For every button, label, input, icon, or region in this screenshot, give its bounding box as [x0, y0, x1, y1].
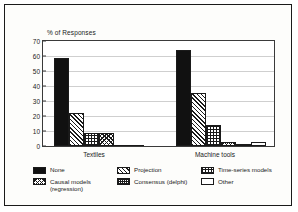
chart-figure: % of Responses 010203040506070 Textiles … [4, 4, 292, 206]
legend-item-causal-models: Causal models (regression) [33, 178, 117, 193]
x-axis-label-1: Machine tools [195, 151, 235, 158]
bar [221, 142, 236, 147]
legend-swatch-consensus-delphi-icon [117, 178, 130, 185]
legend-item-none: None [33, 166, 117, 174]
y-tick-mark [43, 41, 46, 42]
y-tick-mark [43, 86, 46, 87]
y-tick-mark [43, 146, 46, 147]
bar [191, 93, 206, 146]
y-tick-mark [43, 71, 46, 72]
chart-legend: None Projection Time-series models Causa… [33, 166, 283, 197]
legend-label: Causal models (regression) [50, 178, 91, 193]
legend-label: Time-series models [218, 166, 272, 174]
y-tick-label: 20 [33, 113, 40, 120]
plot-area: 010203040506070 [42, 40, 275, 147]
legend-label: Projection [134, 166, 162, 174]
bar [236, 144, 251, 146]
bar [99, 133, 114, 147]
legend-item-projection: Projection [117, 166, 201, 174]
legend-swatch-time-series-models-icon [201, 167, 214, 174]
legend-swatch-causal-models-icon [33, 178, 46, 185]
bar [206, 125, 221, 146]
x-axis-label-0: Textiles [83, 151, 105, 158]
y-tick-mark [43, 116, 46, 117]
y-tick-mark [43, 101, 46, 102]
legend-label: Other [218, 178, 233, 186]
legend-item-other: Other [201, 178, 283, 186]
legend-swatch-none-icon [33, 167, 46, 174]
y-axis-title: % of Responses [47, 29, 96, 36]
y-tick-label: 10 [33, 128, 40, 135]
bar-group-machine-tools [176, 41, 266, 146]
y-tick-label: 30 [33, 98, 40, 105]
bar [54, 58, 69, 147]
bar [129, 145, 144, 146]
y-tick-label: 40 [33, 83, 40, 90]
y-tick-label: 60 [33, 53, 40, 60]
y-tick-label: 0 [36, 143, 40, 150]
legend-swatch-other-icon [201, 178, 214, 185]
bar [251, 142, 266, 147]
legend-label: Consensus (delphi) [134, 178, 187, 186]
legend-swatch-projection-icon [117, 167, 130, 174]
legend-item-consensus-delphi: Consensus (delphi) [117, 178, 201, 186]
y-tick-label: 50 [33, 68, 40, 75]
bar [84, 133, 99, 147]
y-tick-mark [43, 56, 46, 57]
legend-label: None [50, 166, 65, 174]
bar-group-textiles [54, 41, 144, 146]
legend-row: Causal models (regression) Consensus (de… [33, 178, 283, 193]
bar [176, 50, 191, 146]
legend-item-time-series-models: Time-series models [201, 166, 283, 174]
bar [114, 145, 129, 146]
bar [69, 113, 84, 146]
legend-row: None Projection Time-series models [33, 166, 283, 174]
y-tick-label: 70 [33, 38, 40, 45]
y-tick-mark [43, 131, 46, 132]
